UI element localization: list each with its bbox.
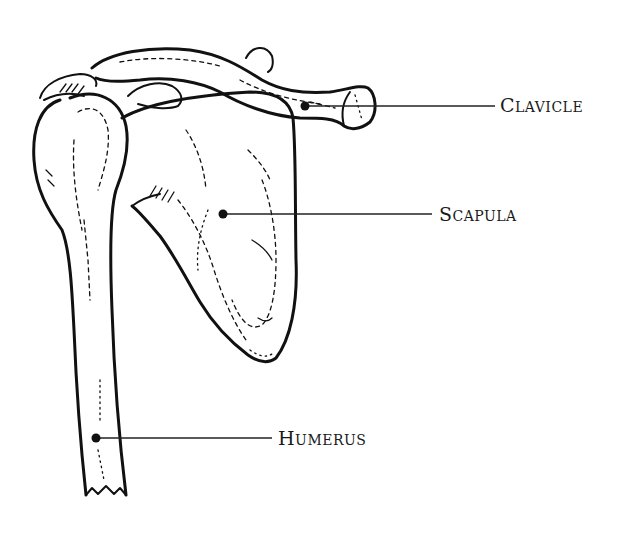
scapula-label-rest: capula — [453, 208, 517, 224]
humerus-drawing — [34, 74, 128, 495]
clavicle-label-initial: C — [500, 94, 515, 116]
scapula-drawing — [122, 83, 296, 361]
scapula-label: Scapula — [439, 204, 517, 226]
humerus-label-initial: H — [278, 427, 295, 449]
clavicle-marker-dot — [301, 102, 310, 111]
clavicle-label: Clavicle — [500, 95, 583, 117]
clavicle-label-rest: lavicle — [515, 99, 583, 115]
clavicle-drawing — [92, 48, 375, 129]
humerus-label-rest: umerus — [295, 432, 366, 448]
shoulder-bones-illustration — [0, 0, 626, 533]
scapula-marker-dot — [219, 210, 228, 219]
scapula-label-initial: S — [439, 203, 453, 225]
humerus-label: Humerus — [278, 428, 366, 450]
humerus-marker-dot — [92, 434, 101, 443]
